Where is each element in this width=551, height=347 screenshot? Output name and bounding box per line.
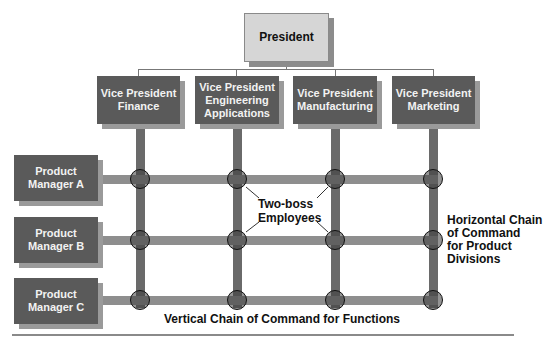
president-box[interactable]: President: [244, 13, 329, 62]
two-boss-line1: Two-boss: [258, 197, 321, 211]
pm-c-line1: Product: [28, 288, 84, 301]
vp-finance-line2: Finance: [101, 100, 177, 113]
product-manager-b-box[interactable]: Product Manager B: [14, 217, 98, 263]
horizontal-chain-label: Horizontal Chain of Command for Product …: [447, 214, 542, 266]
product-manager-c-box[interactable]: Product Manager C: [14, 278, 98, 324]
vp-marketing-line1: Vice President: [396, 87, 472, 100]
two-boss-line2: Employees: [258, 211, 321, 225]
vp-engineering-box[interactable]: Vice President Engineering Applications: [195, 76, 279, 124]
horizontal-chain-line4: Divisions: [447, 253, 542, 266]
pm-a-line1: Product: [28, 165, 84, 178]
pm-c-line2: Manager C: [28, 301, 84, 314]
president-label: President: [259, 31, 314, 44]
vp-marketing-box[interactable]: Vice President Marketing: [392, 76, 475, 124]
vp-manufacturing-line2: Manufacturing: [297, 100, 373, 113]
vertical-chain-label: Vertical Chain of Command for Functions: [164, 312, 400, 326]
product-manager-a-box[interactable]: Product Manager A: [14, 155, 98, 201]
vp-manufacturing-box[interactable]: Vice President Manufacturing: [293, 76, 377, 124]
vp-finance-line1: Vice President: [101, 87, 177, 100]
pm-a-line2: Manager A: [28, 178, 84, 191]
pm-b-line2: Manager B: [28, 240, 84, 253]
bottom-divider: [12, 334, 514, 336]
vp-finance-box[interactable]: Vice President Finance: [97, 76, 180, 124]
pm-b-line1: Product: [28, 227, 84, 240]
vp-engineering-line1: Vice President: [199, 81, 275, 94]
vp-engineering-line3: Applications: [199, 107, 275, 120]
two-boss-label: Two-boss Employees: [258, 197, 321, 225]
vp-engineering-line2: Engineering: [199, 94, 275, 107]
vp-manufacturing-line1: Vice President: [297, 87, 373, 100]
vp-marketing-line2: Marketing: [396, 100, 472, 113]
